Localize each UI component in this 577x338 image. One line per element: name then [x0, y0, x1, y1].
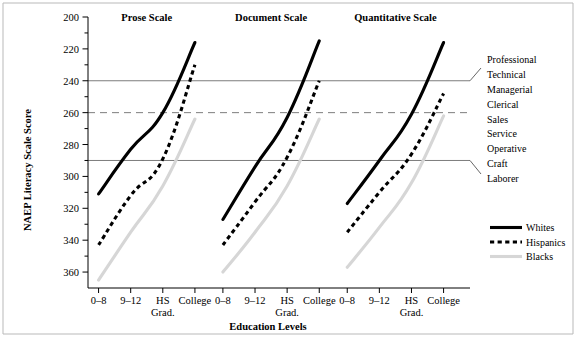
x-tick-label: 0–8	[339, 295, 355, 306]
x-tick-label: 9–12	[120, 295, 141, 306]
y-axis-title: NAEP Literacy Scale Score	[22, 109, 33, 231]
x-tick-label: College	[303, 295, 336, 306]
panel-titles-group: Prose ScaleDocument ScaleQuantitative Sc…	[121, 12, 437, 23]
occupation-label-service: Service	[487, 128, 518, 139]
occupation-label-technical: Technical	[487, 69, 526, 80]
y-axis-tick-label: 220	[63, 44, 79, 55]
x-tick-label-line2: Grad.	[400, 307, 424, 318]
chart-container: 360340320300280260240220200 Prose ScaleD…	[0, 0, 577, 338]
x-tick-label: 0–8	[215, 295, 231, 306]
occupation-label-professional: Professional	[487, 54, 537, 65]
y-axis-tick-label: 340	[63, 235, 79, 246]
x-axis-title: Education Levels	[229, 321, 306, 332]
legend-label-whites: Whites	[526, 222, 554, 233]
occupation-label-laborer: Laborer	[487, 173, 519, 184]
y-axis-tick-label: 200	[63, 12, 79, 23]
occupation-label-sales: Sales	[487, 114, 508, 125]
naep-literacy-line-chart: 360340320300280260240220200 Prose ScaleD…	[0, 0, 577, 338]
occupation-label-operative: Operative	[487, 143, 527, 154]
x-tick-label: College	[427, 295, 460, 306]
x-tick-label: 9–12	[245, 295, 266, 306]
panel-title-2: Document Scale	[235, 12, 307, 23]
y-axis-tick-label: 260	[63, 108, 79, 119]
occupation-label-clerical: Clerical	[487, 99, 519, 110]
occupation-label-managerial: Managerial	[487, 84, 533, 95]
y-axis-tick-label: 320	[63, 203, 79, 214]
x-tick-label: College	[179, 295, 212, 306]
legend-label-blacks: Blacks	[526, 251, 553, 262]
legend-label-hispanics: Hispanics	[526, 237, 566, 248]
panel-title-1: Prose Scale	[121, 12, 172, 23]
occupation-label-craft: Craft	[487, 158, 508, 169]
x-tick-label: 9–12	[369, 295, 390, 306]
x-tick-label: HS	[156, 295, 170, 306]
x-tick-label-line2: Grad.	[151, 307, 175, 318]
y-axis-tick-label: 280	[63, 140, 79, 151]
x-tick-label: HS	[405, 295, 419, 306]
x-tick-label-line2: Grad.	[275, 307, 299, 318]
panel-title-3: Quantitative Scale	[354, 12, 437, 23]
y-axis-tick-label: 360	[63, 267, 79, 278]
y-axis-tick-label: 300	[63, 171, 79, 182]
x-tick-label: HS	[280, 295, 294, 306]
x-tick-label: 0–8	[91, 295, 107, 306]
y-axis-tick-label: 240	[63, 76, 79, 87]
